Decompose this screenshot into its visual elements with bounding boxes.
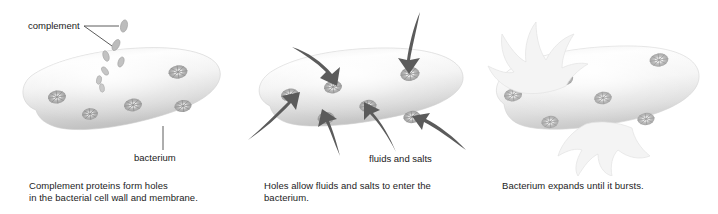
bacterium-body (259, 48, 463, 126)
burst-splash (558, 122, 650, 176)
panel-2-caption-line-1: Holes allow fluids and salts to enter th… (264, 180, 502, 192)
panel-fluids-enter: fluids and salts Holes allow fluids and … (240, 0, 478, 214)
label-bacterium: bacterium (134, 152, 176, 163)
label-fluids-and-salts: fluids and salts (369, 153, 432, 164)
complement-lysis-figure: complement bacterium Complement proteins… (0, 0, 718, 214)
panel-3-illustration (478, 0, 718, 176)
panel-2-caption-line-2: bacterium. (264, 192, 502, 204)
panel-2-caption: Holes allow fluids and salts to enter th… (240, 180, 502, 203)
panel-1-caption-line-1: Complement proteins form holes (29, 180, 269, 192)
fluid-inflow-arrow (412, 113, 466, 150)
panel-3-caption: Bacterium expands until it bursts. (478, 180, 718, 192)
complement-particle (119, 19, 128, 33)
panel-3-caption-line-1: Bacterium expands until it bursts. (502, 180, 718, 192)
panel-2-illustration (240, 0, 478, 176)
panel-complement-forms-holes: complement bacterium Complement proteins… (0, 0, 240, 214)
panel-1-caption-line-2: in the bacterial cell wall and membrane. (29, 192, 269, 204)
panel-1-caption: Complement proteins form holes in the ba… (0, 180, 269, 203)
label-complement: complement (28, 20, 80, 31)
panel-bacterium-bursts: Bacterium expands until it bursts. (478, 0, 718, 214)
